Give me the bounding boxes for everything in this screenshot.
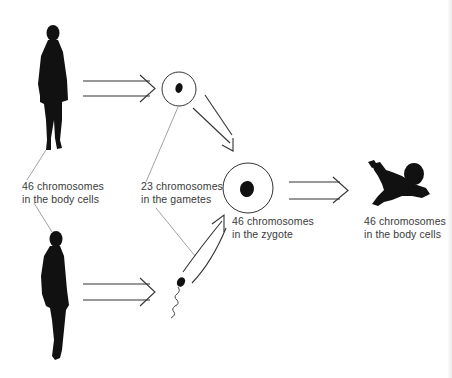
label-baby-body-cells: 46 chromosomes in the body cells xyxy=(364,215,446,241)
label-parents-body-cells: 46 chromosomes in the body cells xyxy=(22,180,104,206)
label-gametes-line2: in the gametes xyxy=(141,193,223,206)
arrow-egg-to-zygote xyxy=(193,95,233,151)
leader-father xyxy=(34,203,52,232)
arrow-mother-to-egg xyxy=(83,75,155,102)
egg-cell-icon xyxy=(162,72,196,106)
label-baby-line1: 46 chromosomes xyxy=(364,215,446,228)
label-gametes: 23 chromosomes in the gametes xyxy=(141,180,223,206)
arrow-father-to-sperm xyxy=(83,278,155,306)
label-parents-line1: 46 chromosomes xyxy=(22,180,104,193)
woman-silhouette-icon xyxy=(38,25,68,150)
label-baby-line2: in the body cells xyxy=(364,228,446,241)
label-gametes-line1: 23 chromosomes xyxy=(141,180,223,193)
label-zygote: 46 chromosomes in the zygote xyxy=(232,215,314,241)
label-parents-line2: in the body cells xyxy=(22,193,104,206)
leader-mother xyxy=(27,150,46,180)
arrow-zygote-to-baby xyxy=(289,177,348,203)
sperm-cell-icon xyxy=(171,276,187,318)
leader-sperm xyxy=(156,208,195,256)
label-zygote-line1: 46 chromosomes xyxy=(232,215,314,228)
label-zygote-line2: in the zygote xyxy=(232,228,314,241)
leader-egg xyxy=(146,107,178,182)
zygote-cell-icon xyxy=(223,163,273,213)
page-edge-shadow xyxy=(448,0,452,378)
baby-silhouette-icon xyxy=(368,160,430,206)
man-silhouette-icon xyxy=(41,231,69,360)
